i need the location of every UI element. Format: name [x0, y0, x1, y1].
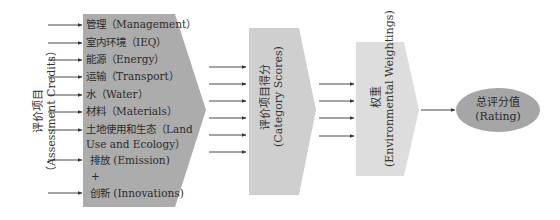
credit-item-water: 水（Water） [86, 88, 148, 101]
credit-item-management: 管理（Management） [86, 18, 196, 31]
credit-item-ieq: 室内环境（IEQ） [86, 36, 166, 49]
plus-sign: + [91, 170, 100, 183]
credit-item-emission: 排放 (Emission) [90, 154, 170, 167]
side-label-cn: 评价项目 [32, 31, 45, 191]
rating-label-en: (Rating) [456, 110, 540, 124]
credit-item-land-use: 土地使用和生态（Land [86, 123, 193, 136]
credit-item-materials: 材料（Materials） [86, 105, 177, 118]
credit-item-transport: 运输（Transport） [86, 70, 179, 83]
weightings-label-en: (Environmental Weightings) [383, 27, 396, 167]
category-scores-label: 评价项目得分 (Category Scores) [259, 47, 285, 147]
weightings-label-cn: 权重 [370, 27, 383, 167]
assessment-credits-side-label: 评价项目 （Assessment Credits） [32, 31, 58, 191]
weightings-label: 权重 (Environmental Weightings) [370, 27, 396, 167]
rating-label: 总评分值 (Rating) [456, 96, 540, 124]
credit-item-energy: 能源（Energy） [86, 53, 164, 66]
credit-item-innovations: 创新 (Innovations) [90, 187, 184, 200]
category-scores-label-en: (Category Scores) [272, 47, 285, 147]
rating-label-cn: 总评分值 [456, 96, 540, 110]
category-scores-label-cn: 评价项目得分 [259, 47, 272, 147]
side-label-en: （Assessment Credits） [45, 31, 58, 191]
credit-item-land-use-line2: Use and Ecology） [86, 138, 185, 151]
